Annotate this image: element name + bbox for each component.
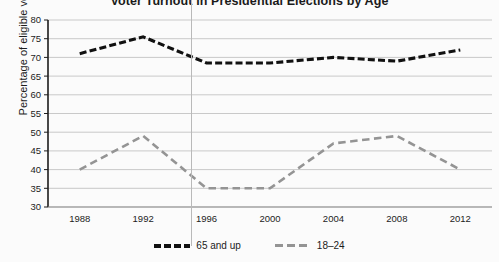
y-tick-label: 30 — [30, 201, 41, 212]
legend-label-65-and-up: 65 and up — [196, 240, 241, 251]
series-line-65-and-up — [80, 37, 461, 63]
y-tick-label: 40 — [30, 164, 41, 175]
y-tick-label: 55 — [30, 108, 41, 119]
y-tick-label: 35 — [30, 183, 41, 194]
legend-item-65-and-up[interactable]: 65 and up — [154, 240, 241, 251]
x-tick-label: 1996 — [196, 213, 217, 224]
text-cursor-artifact — [191, 0, 192, 246]
gridlines — [48, 20, 492, 207]
x-tick-label: 2008 — [386, 213, 407, 224]
x-axis: 1988199219962000200420082012 — [48, 207, 492, 224]
y-tick-label: 45 — [30, 145, 41, 156]
y-axis: 3035404550556065707580 — [30, 14, 48, 212]
legend-line-swatch-dark — [154, 244, 190, 248]
x-tick-label: 2004 — [323, 213, 344, 224]
plot-area: 3035404550556065707580 19881992199620002… — [0, 0, 499, 240]
y-tick-label: 70 — [30, 52, 41, 63]
y-tick-label: 80 — [30, 14, 41, 25]
x-tick-label: 1992 — [133, 213, 154, 224]
chart-container: Voter Turnout in Presidential Elections … — [0, 0, 499, 262]
legend-label-18-24: 18–24 — [317, 240, 345, 251]
x-tick-label: 2012 — [450, 213, 471, 224]
x-tick-label: 2000 — [259, 213, 280, 224]
legend-line-swatch-gray — [275, 244, 311, 247]
y-tick-label: 50 — [30, 127, 41, 138]
legend-item-18-24[interactable]: 18–24 — [275, 240, 345, 251]
y-tick-label: 75 — [30, 33, 41, 44]
y-tick-label: 60 — [30, 89, 41, 100]
chart-legend: 65 and up 18–24 — [0, 240, 499, 251]
y-tick-label: 65 — [30, 71, 41, 82]
x-tick-label: 1988 — [69, 213, 90, 224]
data-series — [80, 37, 461, 188]
series-line-18-24 — [80, 136, 461, 188]
